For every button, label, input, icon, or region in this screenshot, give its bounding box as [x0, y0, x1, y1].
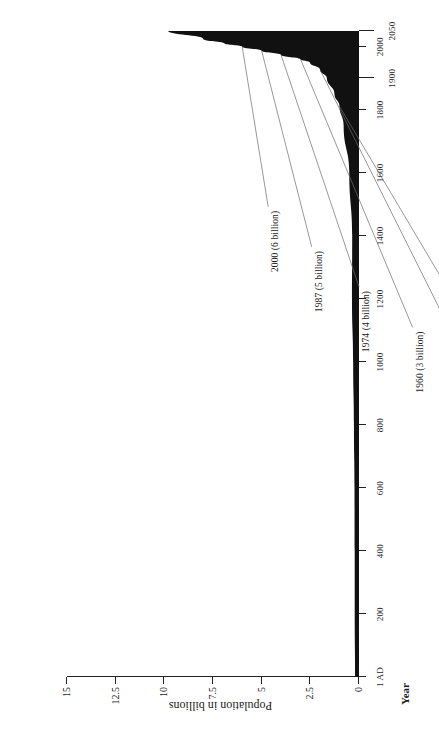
- population-chart: 1 AD200400600800100012001400160018001900…: [63, 29, 433, 719]
- annotation-leader-lines: [67, 31, 359, 677]
- x-tick-label-1600: 1600: [376, 163, 385, 182]
- x-tick-label-400: 400: [376, 544, 385, 558]
- annotation-1974: 1974 (4 billion): [361, 290, 371, 351]
- x-tick-label-1000: 1000: [376, 352, 385, 371]
- x-tick-1900: [359, 77, 374, 78]
- x-tick-label-2050: 2050: [388, 21, 397, 40]
- chart-plot-area: 1 AD200400600800100012001400160018001900…: [63, 29, 433, 719]
- x-tick-400: [359, 550, 366, 551]
- x-tick-200: [359, 613, 366, 614]
- x-tick-label-1200: 1200: [376, 289, 385, 308]
- x-tick-1400: [359, 234, 366, 235]
- y-tick-2.5: [309, 677, 310, 684]
- x-tick-label-1800: 1800: [376, 100, 385, 119]
- x-tick-label-200: 200: [376, 607, 385, 621]
- x-tick-1000: [359, 361, 366, 362]
- y-tick-10: [163, 677, 164, 684]
- x-tick-600: [359, 487, 366, 488]
- annotation-1987: 1987 (5 billion): [313, 250, 323, 311]
- y-tick-0: [358, 677, 359, 684]
- x-tick-1800: [359, 108, 366, 109]
- x-tick-2050: [359, 30, 374, 31]
- y-tick-12.5: [114, 677, 115, 684]
- annotation-2000: 2000 (6 billion): [270, 210, 280, 271]
- leader-line-2000: [242, 46, 268, 206]
- figure-caption: FIGURE 1.2. The population explosion. So…: [407, 743, 421, 747]
- x-tick-label-1-AD: 1 AD: [376, 666, 385, 686]
- y-tick-label-15: 15: [62, 687, 72, 721]
- leader-line-1987: [261, 50, 311, 246]
- annotation-1960: 1960 (3 billion): [414, 331, 424, 392]
- x-tick-label-2000: 2000: [376, 37, 385, 56]
- y-axis-title: Population in billions: [110, 697, 330, 712]
- x-tick-label-1900: 1900: [388, 68, 397, 87]
- y-tick-7.5: [212, 677, 213, 684]
- x-tick-1-AD: [359, 676, 366, 677]
- x-tick-1600: [359, 171, 366, 172]
- x-tick-2000: [359, 45, 366, 46]
- x-tick-label-800: 800: [376, 418, 385, 432]
- y-tick-15: [66, 677, 67, 684]
- y-tick-5: [260, 677, 261, 684]
- x-tick-label-600: 600: [376, 481, 385, 495]
- figure-page: 1 AD200400600800100012001400160018001900…: [0, 0, 439, 747]
- y-tick-label-0: 0: [354, 687, 364, 721]
- x-tick-800: [359, 424, 366, 425]
- x-axis-title: Year: [399, 683, 411, 705]
